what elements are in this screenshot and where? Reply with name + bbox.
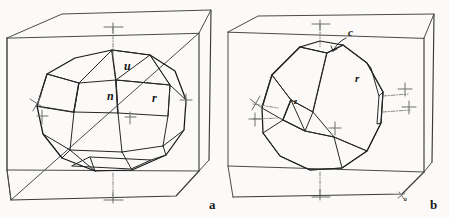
- panel-caption-a: a: [209, 197, 216, 212]
- panel-b-face-labels: c r z a: [293, 26, 407, 202]
- panel-a-drawing: u n r a: [0, 0, 449, 218]
- face-label-c: c: [348, 26, 353, 38]
- edge-label-a: a: [404, 196, 407, 202]
- face-label-r: r: [152, 91, 157, 105]
- figure-crystal-drawings: u n r a: [0, 0, 449, 218]
- face-label-z: z: [293, 97, 298, 106]
- face-label-r-b: r: [355, 72, 360, 84]
- panel-b-axis-markers: [249, 20, 416, 200]
- panel-caption-b: b: [430, 197, 437, 212]
- panel-b-crystal-body: [262, 41, 383, 170]
- face-label-n: n: [107, 89, 114, 103]
- face-label-u: u: [124, 59, 131, 73]
